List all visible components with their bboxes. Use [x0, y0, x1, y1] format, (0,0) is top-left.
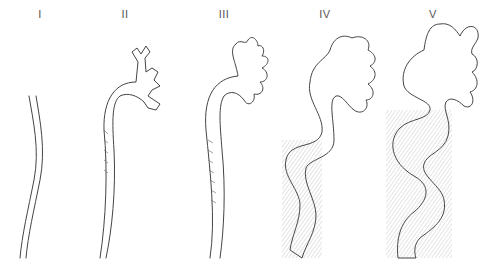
illustrations: [0, 0, 496, 264]
ureter-stage-iv: [282, 36, 375, 258]
ureter-stage-v: [386, 24, 478, 258]
grading-diagram: I II III IV V: [0, 0, 496, 264]
ureter-stage-ii: [100, 46, 160, 258]
ureter-stage-iii: [206, 38, 268, 258]
ureter-stage-i: [20, 96, 43, 258]
